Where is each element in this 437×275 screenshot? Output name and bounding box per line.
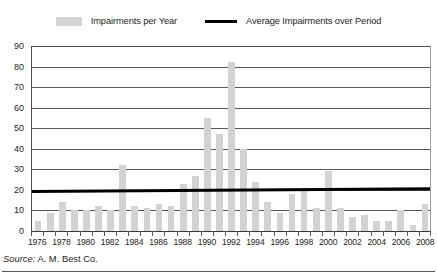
x-tick-1982 (104, 231, 116, 236)
x-tick-mark (371, 231, 372, 236)
y-tick-label-20: 20 (0, 185, 24, 195)
x-label-slot-2000: 2000 (322, 237, 334, 251)
x-tick-2004 (371, 231, 383, 236)
x-axis-ticks (31, 231, 431, 236)
y-tick-label-0: 0 (0, 226, 24, 236)
x-label-slot-1980: 1980 (80, 237, 92, 251)
x-tick-mark (358, 231, 359, 236)
legend-item-average-impairments: Average Impairments over Period (205, 16, 381, 26)
x-tick-mark (67, 231, 68, 236)
x-tick-2007 (407, 231, 419, 236)
x-tick-mark (237, 231, 238, 236)
x-label-slot-2004: 2004 (371, 237, 383, 251)
x-tick-mark (261, 231, 262, 236)
x-tick-1980 (80, 231, 92, 236)
x-tick-1983 (116, 231, 128, 236)
x-tick-mark (164, 231, 165, 236)
source-text: A. M. Best Co. (37, 253, 97, 264)
x-tick-mark (201, 231, 202, 236)
legend-label-average-impairments: Average Impairments over Period (246, 16, 381, 26)
x-tick-2000 (322, 231, 334, 236)
x-tick-mark (92, 231, 93, 236)
y-tick-label-60: 60 (0, 103, 24, 113)
x-tick-1999 (310, 231, 322, 236)
x-label-slot-1994: 1994 (249, 237, 261, 251)
x-tick-mark (334, 231, 335, 236)
x-tick-1984 (128, 231, 140, 236)
line-swatch-icon (205, 20, 237, 23)
x-tick-2001 (334, 231, 346, 236)
x-tick-1988 (177, 231, 189, 236)
x-tick-mark (177, 231, 178, 236)
x-tick-mark (419, 231, 420, 236)
x-tick-1977 (43, 231, 55, 236)
x-axis-label-2008: 2008 (416, 237, 434, 247)
plot-frame (31, 46, 431, 231)
x-tick-1993 (237, 231, 249, 236)
x-tick-1991 (213, 231, 225, 236)
x-label-slot-1990: 1990 (201, 237, 213, 251)
x-tick-mark (249, 231, 250, 236)
y-tick-label-70: 70 (0, 82, 24, 92)
x-tick-mark (43, 231, 44, 236)
x-label-slot-1984: 1984 (128, 237, 140, 251)
x-label-slot-1986: 1986 (152, 237, 164, 251)
x-label-slot-1988: 1988 (177, 237, 189, 251)
bar-swatch-icon (56, 17, 82, 26)
x-tick-mark (104, 231, 105, 236)
y-tick-label-40: 40 (0, 144, 24, 154)
source-prefix: Source: (3, 253, 35, 264)
x-tick-2005 (383, 231, 395, 236)
x-tick-2002 (346, 231, 358, 236)
x-tick-1998 (298, 231, 310, 236)
plot-area (31, 46, 431, 231)
x-tick-1997 (286, 231, 298, 236)
x-label-slot-1982: 1982 (104, 237, 116, 251)
x-tick-mark-end (430, 231, 431, 236)
y-tick-label-80: 80 (0, 62, 24, 72)
x-tick-mark (274, 231, 275, 236)
x-tick-1986 (152, 231, 164, 236)
x-tick-1978 (55, 231, 67, 236)
y-tick-label-50: 50 (0, 123, 24, 133)
x-tick-mark (346, 231, 347, 236)
x-label-slot-1978: 1978 (55, 237, 67, 251)
x-tick-1985 (140, 231, 152, 236)
x-tick-mark (310, 231, 311, 236)
x-tick-mark (116, 231, 117, 236)
x-label-slot-1992: 1992 (225, 237, 237, 251)
legend-item-impairments-per-year: Impairments per Year (56, 16, 177, 26)
bottom-divider (2, 271, 435, 272)
x-tick-1987 (164, 231, 176, 236)
legend-label-impairments-per-year: Impairments per Year (91, 16, 177, 26)
x-tick-mark (31, 231, 32, 236)
x-tick-mark (152, 231, 153, 236)
chart-legend: Impairments per Year Average Impairments… (0, 12, 437, 30)
x-tick-mark (55, 231, 56, 236)
y-tick-label-90: 90 (0, 41, 24, 51)
x-tick-1990 (201, 231, 213, 236)
x-tick-1976 (31, 231, 43, 236)
x-tick-2006 (395, 231, 407, 236)
x-tick-1996 (274, 231, 286, 236)
x-label-slot-1996: 1996 (274, 237, 286, 251)
x-tick-mark (225, 231, 226, 236)
x-tick-mark (407, 231, 408, 236)
x-tick-mark (189, 231, 190, 236)
x-label-slot-2008: 2008 (419, 237, 431, 251)
x-tick-mark (80, 231, 81, 236)
source-note: Source: A. M. Best Co. (3, 253, 98, 264)
x-tick-2003 (358, 231, 370, 236)
x-label-slot-2006: 2006 (395, 237, 407, 251)
y-tick-label-10: 10 (0, 205, 24, 215)
x-tick-1995 (261, 231, 273, 236)
x-label-slot-1998: 1998 (298, 237, 310, 251)
x-tick-1994 (249, 231, 261, 236)
x-label-slot-1976: 1976 (31, 237, 43, 251)
impairments-chart-figure: Impairments per Year Average Impairments… (0, 0, 437, 275)
x-tick-mark (286, 231, 287, 236)
x-tick-mark (213, 231, 214, 236)
x-tick-mark (298, 231, 299, 236)
x-tick-1989 (189, 231, 201, 236)
y-tick-label-30: 30 (0, 164, 24, 174)
